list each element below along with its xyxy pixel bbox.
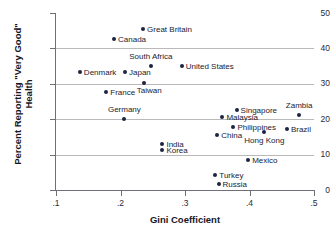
gridline <box>56 84 314 85</box>
data-point-label: United States <box>186 62 234 71</box>
x-tick-label: .1 <box>44 199 68 208</box>
y-tick-label: 40 <box>284 44 330 53</box>
gridline <box>56 48 314 49</box>
data-point-label: Mexico <box>252 156 277 165</box>
data-point[interactable] <box>122 117 126 121</box>
data-point[interactable] <box>160 148 164 152</box>
data-point[interactable] <box>235 108 239 112</box>
scatter-chart: Great BritainCanadaSouth AfricaUnited St… <box>0 0 330 234</box>
data-point[interactable] <box>112 37 116 41</box>
data-point[interactable] <box>231 125 235 129</box>
x-tick <box>121 190 122 196</box>
data-point-label: China <box>221 130 242 139</box>
data-point-label: France <box>110 88 135 97</box>
y-tick <box>50 13 56 14</box>
data-point[interactable] <box>217 182 221 186</box>
x-tick <box>250 190 251 196</box>
data-point[interactable] <box>215 133 219 137</box>
y-tick-label: 50 <box>284 9 330 18</box>
data-point-label: South Africa <box>129 52 172 61</box>
data-point-label: Brazil <box>291 125 311 134</box>
y-tick <box>50 48 56 49</box>
data-point-label: Canada <box>118 34 146 43</box>
y-tick-label: 0 <box>284 186 330 195</box>
data-point[interactable] <box>104 90 108 94</box>
data-point-label: Philippines <box>237 122 276 131</box>
y-tick <box>50 155 56 156</box>
data-point-label: Hong Kong <box>244 136 284 145</box>
data-point[interactable] <box>180 64 184 68</box>
data-point-label: Great Britain <box>147 24 192 33</box>
y-tick-label: 30 <box>284 79 330 88</box>
x-tick-label: .2 <box>109 199 133 208</box>
data-point-label: Denmark <box>84 68 116 77</box>
data-point-label: Zambia <box>286 101 313 110</box>
data-point[interactable] <box>220 115 224 119</box>
y-axis-title: Percent Reporting "Very Good" Health <box>12 9 34 179</box>
x-tick-label: .5 <box>302 199 326 208</box>
plot-area: Great BritainCanadaSouth AfricaUnited St… <box>56 13 314 190</box>
x-tick <box>314 190 315 196</box>
data-point[interactable] <box>246 158 250 162</box>
y-axis-line <box>55 13 56 191</box>
x-tick-label: .3 <box>173 199 197 208</box>
data-point[interactable] <box>262 130 266 134</box>
data-point[interactable] <box>141 27 145 31</box>
data-point[interactable] <box>285 127 289 131</box>
y-tick <box>50 119 56 120</box>
data-point-label: Japan <box>129 68 151 77</box>
x-tick <box>185 190 186 196</box>
data-point-label: Turkey <box>219 171 243 180</box>
y-tick-label: 20 <box>284 115 330 124</box>
data-point-label: Russia <box>223 180 247 189</box>
data-point[interactable] <box>123 70 127 74</box>
data-point-label: Germany <box>108 105 141 114</box>
data-point-label: Malaysia <box>226 113 258 122</box>
data-point-label: Taiwan <box>137 86 162 95</box>
gridline <box>56 119 314 120</box>
data-point[interactable] <box>142 81 146 85</box>
x-tick-label: .4 <box>238 199 262 208</box>
data-point-label: Korea <box>166 146 187 155</box>
data-point[interactable] <box>213 173 217 177</box>
data-point[interactable] <box>160 142 164 146</box>
y-tick <box>50 84 56 85</box>
x-axis-title: Gini Coefficient <box>55 214 315 225</box>
data-point[interactable] <box>78 70 82 74</box>
y-tick-label: 10 <box>284 150 330 159</box>
x-tick <box>56 190 57 196</box>
